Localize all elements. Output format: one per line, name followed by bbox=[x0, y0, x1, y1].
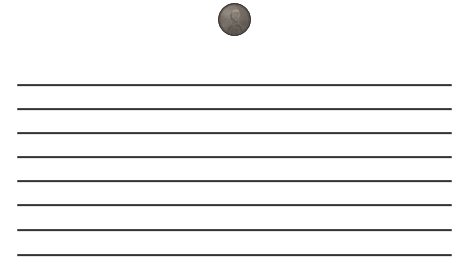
ruled-line bbox=[17, 132, 452, 134]
ruled-line bbox=[17, 156, 452, 158]
ruled-line bbox=[17, 108, 452, 110]
ruled-line bbox=[17, 254, 452, 256]
penny-coin-graphic bbox=[218, 3, 251, 36]
penny-coin bbox=[218, 3, 251, 36]
ruled-line bbox=[17, 229, 452, 231]
ruled-line bbox=[17, 180, 452, 182]
lined-paper-scene bbox=[0, 0, 468, 268]
ruled-line bbox=[17, 84, 452, 86]
ruled-line bbox=[17, 204, 452, 206]
